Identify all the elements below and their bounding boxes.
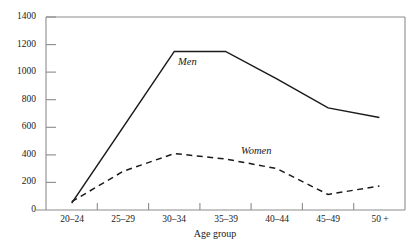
x-tick-label-45-49: 45–49 (302, 215, 354, 225)
x-tick-label-40-44: 40–44 (251, 215, 303, 225)
x-tick-label-25-29: 25–29 (97, 215, 149, 225)
y-tick-label-1200: 1200 (2, 40, 36, 50)
x-tick-label-30-34: 30–34 (148, 215, 200, 225)
x-tick-label-20-24: 20–24 (46, 215, 98, 225)
axis-frame (36, 17, 405, 210)
y-tick-label-600: 600 (2, 122, 36, 132)
series-label-women: Women (241, 146, 272, 157)
x-tick-label-50-plus: 50 + (354, 215, 406, 225)
y-tick-label-200: 200 (2, 177, 36, 187)
y-tick-label-1000: 1000 (2, 67, 36, 77)
series-line-women (72, 154, 380, 202)
chart-plot-area (0, 0, 419, 249)
y-tick-label-1400: 1400 (2, 12, 36, 22)
y-tick-label-400: 400 (2, 150, 36, 160)
y-axis-ticks (46, 17, 56, 182)
y-tick-label-0: 0 (2, 205, 36, 215)
x-axis-title: Age group (170, 229, 260, 239)
y-tick-label-800: 800 (2, 95, 36, 105)
chart-container: 1400 1200 1000 800 600 400 200 0 20–24 2… (0, 0, 419, 249)
x-axis-ticks (97, 203, 353, 210)
x-tick-label-35-39: 35–39 (200, 215, 252, 225)
series-line-men (72, 51, 380, 203)
series-label-men: Men (178, 57, 197, 68)
